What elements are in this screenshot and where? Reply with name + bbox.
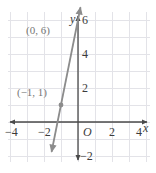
y-tick-label-neg2: −2 <box>80 150 93 162</box>
x-tick-label-2: 2 <box>109 126 115 138</box>
origin-label: O <box>83 126 92 138</box>
data-point-marker <box>59 103 64 108</box>
point-label-0-6: (0, 6) <box>26 25 50 36</box>
x-axis-label: x <box>143 122 148 134</box>
y-axis-label: y <box>70 13 75 25</box>
y-tick-label-6: 6 <box>82 14 88 26</box>
point-label-neg1-1: (−1, 1) <box>17 87 47 98</box>
y-tick-label-4: 4 <box>82 48 88 60</box>
x-tick-label-4: 4 <box>136 126 142 138</box>
x-tick-label-neg2: −2 <box>38 126 51 138</box>
x-tick-label-neg4: −4 <box>5 126 18 138</box>
coordinate-graph-figure: 6 4 2 −2 −4 −2 2 4 O x y (0, 6) (−1, 1) <box>0 0 156 173</box>
y-tick-label-2: 2 <box>82 82 88 94</box>
